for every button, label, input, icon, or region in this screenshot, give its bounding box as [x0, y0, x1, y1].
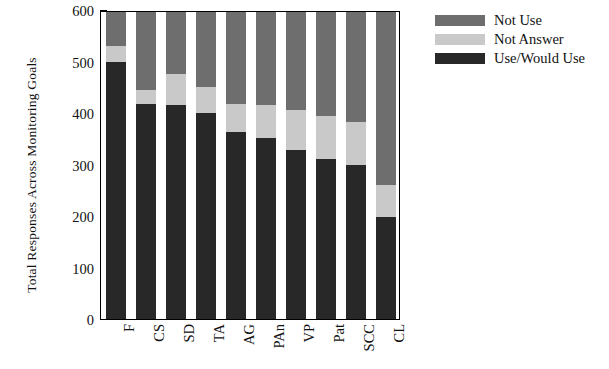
- legend-item-use-would-use: Use/Would Use: [435, 50, 585, 67]
- not-answer-swatch: [435, 34, 485, 45]
- bar-segment-not-answer: [376, 185, 396, 217]
- bar-segment-not-use: [256, 12, 276, 105]
- bar-segment-not-use: [196, 12, 216, 87]
- bar-segment-not-answer: [166, 74, 186, 105]
- bar-sd: [166, 12, 186, 319]
- bar-segment-not-use: [286, 12, 306, 110]
- chart-legend: Not Use Not Answer Use/Would Use: [435, 12, 585, 69]
- bar-scc: [346, 12, 366, 319]
- x-axis-label-pat: Pat: [332, 324, 347, 369]
- y-axis-tick-label: 200: [72, 210, 94, 225]
- bar-cl: [376, 12, 396, 319]
- not-use-swatch: [435, 15, 485, 26]
- stacked-bar-chart: Total Responses Across Monitoring Goals …: [0, 0, 609, 369]
- y-axis-tick-label: 600: [72, 4, 94, 19]
- legend-label-not-use: Not Use: [494, 13, 542, 28]
- y-axis-tick-label: 0: [87, 313, 94, 328]
- plot-area: [100, 11, 400, 320]
- y-axis-tick-label: 500: [72, 56, 94, 71]
- bar-segment-use-would-use: [316, 159, 336, 319]
- bar-segment-not-use: [316, 12, 336, 116]
- bar-segment-not-use: [376, 12, 396, 185]
- bar-segment-not-use: [166, 12, 186, 74]
- y-axis-tick-label: 100: [72, 262, 94, 277]
- bar-segment-not-answer: [286, 110, 306, 150]
- bar-segment-not-use: [106, 12, 126, 46]
- x-axis-label-ta: TA: [212, 324, 227, 369]
- bar-segment-use-would-use: [136, 104, 156, 319]
- bar-segment-not-answer: [226, 104, 246, 132]
- x-axis-label-f: F: [122, 324, 137, 369]
- bar-segment-not-answer: [316, 116, 336, 159]
- bar-segment-not-answer: [106, 46, 126, 61]
- bar-segment-use-would-use: [346, 165, 366, 319]
- bars-layer: [101, 12, 399, 319]
- bar-pan: [256, 12, 276, 319]
- x-axis-label-cl: CL: [392, 324, 407, 369]
- legend-item-not-use: Not Use: [435, 12, 585, 29]
- bar-segment-not-use: [346, 12, 366, 122]
- bar-segment-use-would-use: [196, 113, 216, 319]
- y-axis-tick-label: 300: [72, 159, 94, 174]
- bar-segment-use-would-use: [166, 105, 186, 319]
- bar-vp: [286, 12, 306, 319]
- x-axis-label-pan: PAn: [272, 324, 287, 369]
- bar-segment-use-would-use: [106, 62, 126, 319]
- use-would-use-swatch: [435, 53, 485, 64]
- x-axis-label-scc: SCC: [362, 324, 377, 369]
- bar-ta: [196, 12, 216, 319]
- bar-segment-not-use: [226, 12, 246, 104]
- bar-f: [106, 12, 126, 319]
- legend-label-not-answer: Not Answer: [494, 32, 564, 47]
- bar-ag: [226, 12, 246, 319]
- legend-item-not-answer: Not Answer: [435, 31, 585, 48]
- legend-label-use-would-use: Use/Would Use: [494, 51, 585, 66]
- bar-segment-not-use: [136, 12, 156, 90]
- x-axis-label-cs: CS: [152, 324, 167, 369]
- bar-pat: [316, 12, 336, 319]
- bar-segment-use-would-use: [256, 138, 276, 319]
- bar-segment-not-answer: [136, 90, 156, 104]
- bar-segment-use-would-use: [226, 132, 246, 319]
- x-axis-label-vp: VP: [302, 324, 317, 369]
- x-axis-label-ag: AG: [242, 324, 257, 369]
- y-axis-title: Total Responses Across Monitoring Goals: [24, 10, 40, 340]
- bar-segment-use-would-use: [286, 150, 306, 319]
- x-axis-label-sd: SD: [182, 324, 197, 369]
- bar-segment-use-would-use: [376, 217, 396, 319]
- bar-segment-not-answer: [256, 105, 276, 138]
- bar-segment-not-answer: [196, 87, 216, 113]
- bar-segment-not-answer: [346, 122, 366, 165]
- bar-cs: [136, 12, 156, 319]
- y-axis-tick-label: 400: [72, 107, 94, 122]
